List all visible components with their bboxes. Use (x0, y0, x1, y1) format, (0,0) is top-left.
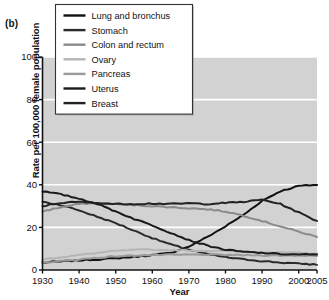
y-tick-label: 60 (26, 137, 37, 148)
legend-item-label: Pancreas (92, 69, 131, 79)
x-tick-label: 1940 (69, 275, 90, 286)
y-tick-label: 40 (26, 179, 37, 190)
legend-item-label: Ovary (92, 55, 117, 65)
x-tick-label: 1980 (215, 275, 236, 286)
y-tick-label: 100 (21, 51, 37, 62)
legend: Lung and bronchusStomachColon and rectum… (56, 5, 195, 116)
x-tick-label: 1930 (32, 275, 53, 286)
x-axis-ticks-group: 193019401950196019701980199020002005 (32, 270, 328, 286)
line-chart: 020406080100 193019401950196019701980199… (0, 0, 329, 300)
x-tick-label: 1950 (105, 275, 126, 286)
legend-item-label: Colon and rectum (92, 40, 165, 50)
y-axis-ticks-group: 020406080100 (21, 51, 42, 275)
legend-item-label: Lung and bronchus (92, 11, 171, 21)
x-tick-label: 1960 (142, 275, 163, 286)
x-tick-label: 1990 (252, 275, 273, 286)
legend-item-label: Breast (92, 99, 119, 109)
x-tick-label: 2005 (306, 275, 327, 286)
y-tick-label: 20 (26, 222, 37, 233)
y-tick-label: 80 (26, 94, 37, 105)
figure-panel-b: (b) Rate per 100,000 female population Y… (0, 0, 329, 300)
legend-item-label: Uterus (92, 84, 119, 94)
x-tick-label: 1970 (178, 275, 199, 286)
legend-item-label: Stomach (92, 26, 128, 36)
